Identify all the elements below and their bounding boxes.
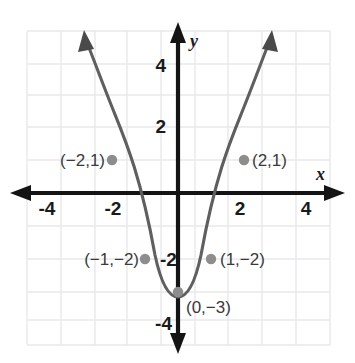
- point-label-2-1: (2,1): [252, 151, 287, 170]
- point-label-0-minus3: (0,−3): [186, 298, 231, 317]
- y-tick-label-minus4: -4: [155, 313, 172, 334]
- parabola-graph: y x -4 -2 2 4 4 2 -2 -4 (−2,1) (2,1) (−1…: [0, 0, 355, 363]
- x-tick-label-minus4: -4: [39, 198, 56, 219]
- x-tick-label-2: 2: [235, 198, 246, 219]
- y-axis-name: y: [188, 31, 199, 51]
- point-2-1: [239, 155, 249, 165]
- y-tick-label-minus2: -2: [160, 249, 177, 270]
- x-axis-name: x: [315, 164, 325, 184]
- point-minus1-minus2: [140, 254, 150, 264]
- x-tick-label-minus2: -2: [105, 198, 122, 219]
- point-label-minus2-1: (−2,1): [60, 151, 105, 170]
- y-tick-label-4: 4: [155, 55, 166, 76]
- point-label-1-minus2: (1,−2): [220, 250, 265, 269]
- point-0-minus3: [173, 287, 183, 297]
- point-1-minus2: [206, 254, 216, 264]
- point-minus2-1: [107, 155, 117, 165]
- point-label-minus1-minus2: (−1,−2): [84, 250, 139, 269]
- y-tick-label-2: 2: [155, 116, 166, 137]
- x-tick-label-4: 4: [301, 198, 312, 219]
